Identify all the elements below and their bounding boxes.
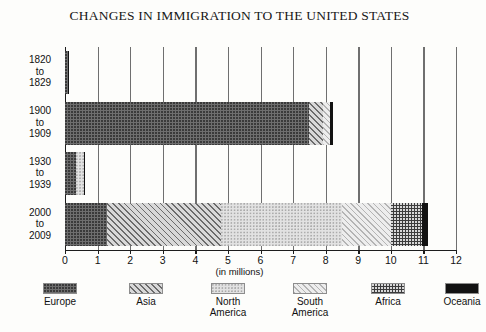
bar-segment-europe <box>65 203 107 246</box>
legend-label-line: Africa <box>350 296 426 307</box>
legend-swatch-oceania-icon <box>445 283 479 294</box>
y-axis-label-line: 2000 <box>18 207 62 219</box>
x-axis-title: (in millions) <box>0 266 479 277</box>
bar-segment-oceania <box>422 203 429 246</box>
y-axis-label-line: to <box>18 218 62 230</box>
bar-segment-northamerica <box>76 152 83 195</box>
legend-swatch-southamerica-icon <box>293 283 327 294</box>
legend-swatch-northamerica-icon <box>211 283 245 294</box>
bar-segment-europe <box>65 102 309 145</box>
legend-item-southamerica[interactable]: SouthAmerica <box>272 283 348 318</box>
x-tick-label-8: 8 <box>323 254 329 266</box>
bar-segment-oceania <box>330 102 333 145</box>
chart-title: CHANGES IN IMMIGRATION TO THE UNITED STA… <box>0 8 479 24</box>
x-tick-label-5: 5 <box>225 254 231 266</box>
x-tick-label-11: 11 <box>418 254 429 266</box>
bar-group-2000-to-2009 <box>65 203 456 246</box>
y-axis-label-3: 2000to2009 <box>18 207 62 242</box>
bar-segment-southamerica <box>323 102 330 145</box>
y-axis-label-line: 1829 <box>18 77 62 89</box>
legend-swatch-asia-icon <box>129 283 163 294</box>
y-axis-label-line: 1930 <box>18 156 62 168</box>
x-tick-label-1: 1 <box>95 254 101 266</box>
legend-swatch-africa-icon <box>371 283 405 294</box>
y-axis-label-line: 1900 <box>18 105 62 117</box>
legend-label-line: Oceania <box>424 296 486 307</box>
legend-label-oceania: Oceania <box>424 296 486 307</box>
legend-item-northamerica[interactable]: NorthAmerica <box>190 283 266 318</box>
y-axis-label-line: 1909 <box>18 128 62 140</box>
legend-label-line: Europe <box>22 296 98 307</box>
y-axis-label-2: 1930to1939 <box>18 156 62 191</box>
bar-segment-asia <box>107 203 221 246</box>
y-axis-label-line: to <box>18 117 62 129</box>
legend-swatch-europe-icon <box>43 283 77 294</box>
x-tick-label-2: 2 <box>127 254 133 266</box>
y-axis-label-line: to <box>18 167 62 179</box>
y-axis-label-line: 1820 <box>18 54 62 66</box>
y-axis-label-0: 1820to1829 <box>18 54 62 89</box>
bar-group-1930-to-1939 <box>65 152 456 195</box>
bar-segment-northamerica <box>221 203 342 246</box>
bar-segment-oceania <box>84 152 85 195</box>
legend-label-line: America <box>272 307 348 318</box>
legend-label-southamerica: SouthAmerica <box>272 296 348 318</box>
legend-item-europe[interactable]: Europe <box>22 283 98 307</box>
y-axis-label-1: 1900to1909 <box>18 105 62 140</box>
bar-segment-southamerica <box>342 203 391 246</box>
legend-item-africa[interactable]: Africa <box>350 283 426 307</box>
legend-label-northamerica: NorthAmerica <box>190 296 266 318</box>
y-axis-label-line: 1939 <box>18 179 62 191</box>
bar-segment-europe <box>65 152 76 195</box>
bar-group-1900-to-1909 <box>65 102 456 145</box>
x-tick-label-0: 0 <box>62 254 68 266</box>
y-axis-label-line: to <box>18 66 62 78</box>
bar-segment-asia <box>309 102 323 145</box>
legend-item-oceania[interactable]: Oceania <box>424 283 486 307</box>
bar-group-1820-to-1829 <box>65 51 456 94</box>
y-axis-label-line: 2009 <box>18 230 62 242</box>
x-tick-label-10: 10 <box>385 254 397 266</box>
legend-label-line: North <box>190 296 266 307</box>
legend-label-line: South <box>272 296 348 307</box>
x-tick-label-4: 4 <box>192 254 198 266</box>
legend-label-line: America <box>190 307 266 318</box>
legend-label-africa: Africa <box>350 296 426 307</box>
chart-legend: EuropeAsiaNorthAmericaSouthAmericaAfrica… <box>0 283 479 329</box>
legend-label-line: Asia <box>108 296 184 307</box>
x-tick-label-7: 7 <box>290 254 296 266</box>
x-tick-label-6: 6 <box>258 254 264 266</box>
legend-item-asia[interactable]: Asia <box>108 283 184 307</box>
x-tick-label-3: 3 <box>160 254 166 266</box>
legend-label-europe: Europe <box>22 296 98 307</box>
x-tick-label-12: 12 <box>450 254 462 266</box>
x-tick-label-9: 9 <box>355 254 361 266</box>
bar-segment-oceania <box>68 51 69 94</box>
legend-label-asia: Asia <box>108 296 184 307</box>
gridline-12 <box>456 47 457 250</box>
bar-segment-africa <box>391 203 422 246</box>
